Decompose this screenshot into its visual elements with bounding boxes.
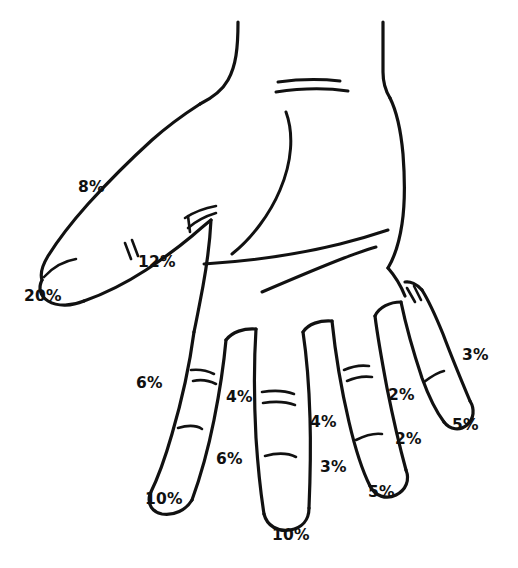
label-ring-ulnar-proximal: 2% [388,388,415,404]
index-finger-ulnar-edge [192,340,226,500]
label-ring-tip: 5% [368,485,395,501]
index-dip-crease [178,426,202,429]
label-index-radial-proximal: 6% [136,376,163,392]
label-index-tip: 10% [145,492,183,508]
little-mcp-crease-a [407,288,415,302]
thumb-web-fold-a [185,206,216,218]
label-little-tip: 5% [452,418,479,434]
middle-dip-crease [265,454,296,457]
index-finger-radial-edge [150,332,194,494]
little-dip-crease [424,371,444,382]
hand-line-drawing [0,0,518,568]
wrist-right-edge [383,22,390,98]
index-pip-crease-a [191,370,214,374]
middle-finger-web-left [303,321,332,332]
thumb-upper-edge [41,104,200,280]
middle-finger-radial-edge [255,329,265,514]
palm-thenar-crease [232,112,291,254]
wrist-crease-lower [276,89,348,92]
ring-pip-crease-a [344,366,369,370]
index-finger-web-left [226,329,256,340]
label-middle-tip: 10% [272,528,310,544]
palm-heart-line [204,230,388,264]
wrist-left-edge [200,22,238,104]
palm-hypothenar-edge [388,98,404,268]
label-thumb-proximal: 8% [78,180,105,196]
palm-thumb-side-edge [194,220,211,332]
thumb-nail-fold [44,259,76,277]
middle-pip-crease-a [262,391,294,394]
middle-pip-crease-b [263,402,295,405]
label-index-ulnar-middle: 4% [226,390,253,406]
palm-head-line [262,247,376,292]
label-middle-ulnar-distal: 3% [320,460,347,476]
ring-finger-web-left [375,302,401,316]
label-ring-ulnar-distal: 2% [395,432,422,448]
wrist-crease-upper [278,80,340,82]
thumb-web-arrow [188,216,190,232]
hand-impairment-figure: 8% 12% 20% 6% 4% 6% 10% 4% 3% 10% 2% 2% … [0,0,518,568]
label-index-ulnar-distal: 6% [216,452,243,468]
label-middle-ulnar-proximal: 4% [310,415,337,431]
label-little-ulnar-proximal: 3% [462,348,489,364]
label-thumb-ip: 12% [138,255,176,271]
thumb-ip-crease-a [125,243,131,259]
ring-pip-crease-b [347,377,372,381]
ring-dip-crease [356,434,382,440]
label-thumb-tip: 20% [24,289,62,305]
index-pip-crease-b [193,380,216,384]
palm-ulnar-lower [388,268,405,296]
